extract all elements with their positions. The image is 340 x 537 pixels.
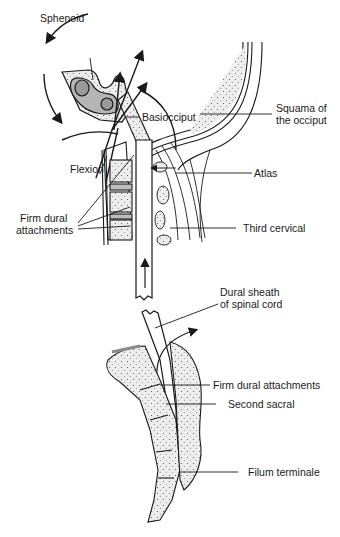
spinal-cord-upper [136,140,152,300]
sacrum-coccyx [107,342,202,522]
label-firm-dural-line1: Firm dural [20,212,67,224]
label-squama-line1: Squama of [276,102,327,114]
label-dural-sheath-line2: of spinal cord [220,298,282,310]
dural-attachments-figure: Sphenoid Basiocciput Squama of the occip… [0,0,340,537]
label-third-cervical: Third cervical [243,222,305,234]
label-flexion: Flexion [70,163,104,175]
label-dural-sheath-line1: Dural sheath [220,286,280,298]
posterior-neck [152,142,210,245]
rotation-arrows [44,14,176,150]
label-second-sacral: Second sacral [228,398,295,410]
occipital-squama [140,42,262,170]
label-basiocciput: Basiocciput [142,111,196,123]
label-filum-terminale: Filum terminale [248,466,320,478]
label-sphenoid: Sphenoid [40,12,84,24]
label-atlas: Atlas [254,167,277,179]
label-firm-dural-line2: attachments [16,224,73,236]
anatomy-drawing [0,0,340,537]
label-firm-dural-attachments: Firm dural attachments [213,379,320,391]
label-squama-line2: the occiput [276,114,327,126]
